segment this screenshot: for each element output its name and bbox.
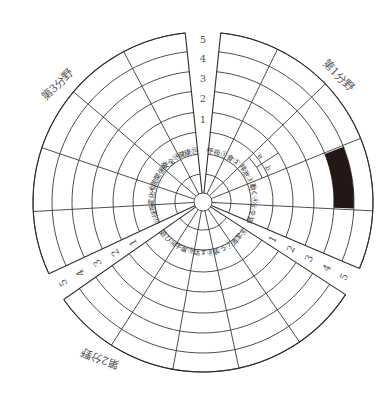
scale-tick-label: 2 [109,247,122,258]
category-label: 健康⑮ [177,145,200,160]
category-label: 装う⑦ [212,240,235,257]
spoke-line [209,84,325,196]
sub-label: a [256,152,265,160]
scale-tick-label: 4 [320,262,333,273]
category-label: 排泄③ [237,163,256,186]
sector-title: 第2分野 [78,346,120,373]
ring-arc [79,284,329,353]
scale-tick-label: 1 [200,114,206,125]
scale-tick-label: 5 [57,277,70,288]
ring-arc [210,132,273,229]
spoke-line [111,210,198,346]
ring-arc [112,262,296,313]
sector-edge [211,207,346,295]
scale-tick-label: 5 [200,34,206,45]
spoke-line [173,211,202,369]
filled-cells [325,147,354,209]
filled-cell [325,147,354,209]
scale-tick-label: 1 [126,237,139,248]
ring-arc [129,251,278,292]
category-label: 話す⑧ [193,248,214,257]
scale-tick-label: 1 [266,234,279,245]
scale-tick-label: 4 [74,267,87,278]
category-label: 眠る⑤ [246,202,259,224]
scale-tick-label: 3 [200,73,206,84]
scale-tick-label: 3 [303,253,316,264]
scale-tick-label: 2 [285,243,298,254]
spoke-line [205,211,239,368]
ring-arc [180,217,226,230]
sector-title: 第3分野 [38,65,76,103]
sector-title: 第1分野 [320,56,358,94]
scale-tick-label: 5 [337,271,350,282]
scale-tick-label: 4 [200,53,206,64]
category-label: 呼吸① [206,145,229,159]
ring-arc [92,92,191,249]
scale-tick-label: 3 [91,257,104,268]
spoke-line [74,92,197,196]
scale-tick-label: 2 [200,93,206,104]
radial-assessment-chart: 呼吸①食②排泄③ab動く④眠る⑤清潔⑥装う⑦話す⑧学習⑨遊び⑩役割⑪変化⑫人間関… [0,0,390,410]
category-label: 動く④ [248,182,260,204]
center-hub [194,193,212,211]
sub-label: b [263,164,272,172]
